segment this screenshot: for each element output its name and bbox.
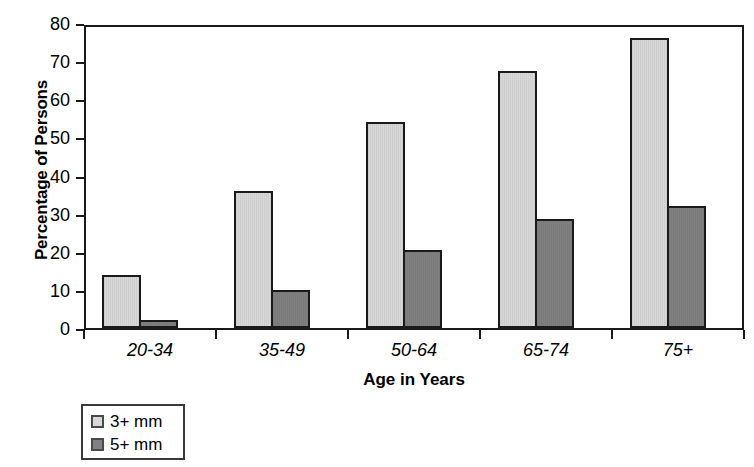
bar (102, 275, 141, 328)
y-axis-tick-label: 30 (30, 206, 70, 224)
bar (403, 250, 442, 328)
x-axis-category-label: 35-49 (216, 340, 348, 361)
x-axis-tick-mark (743, 330, 745, 339)
x-axis-category-label: 20-34 (84, 340, 216, 361)
y-axis-tick-mark (76, 100, 84, 102)
x-axis-category-label: 50-64 (348, 340, 480, 361)
y-axis-tick-labels: 01020304050607080 (26, 0, 70, 467)
legend-item-label: 3+ mm (110, 413, 162, 430)
bar (139, 320, 178, 328)
x-axis-tick-mark (83, 330, 85, 339)
bar (498, 71, 537, 328)
bar (271, 290, 310, 328)
y-axis-tick-label: 0 (30, 320, 70, 338)
light-gray-swatch (91, 415, 104, 428)
legend-item: 5+ mm (91, 433, 183, 456)
legend-item: 3+ mm (91, 410, 183, 433)
bar (234, 191, 273, 328)
y-axis-tick-label: 50 (30, 129, 70, 147)
bar (535, 219, 574, 328)
bar-chart: Percentage of Persons 01020304050607080 … (0, 0, 754, 467)
bar (630, 38, 669, 328)
y-axis-tick-label: 40 (30, 168, 70, 186)
x-axis-tick-mark (347, 330, 349, 339)
chart-legend: 3+ mm5+ mm (81, 404, 185, 460)
x-axis-category-label: 75+ (612, 340, 744, 361)
y-axis-tick-mark (76, 253, 84, 255)
bar (366, 122, 405, 328)
dark-gray-swatch (91, 438, 104, 451)
y-axis-tick-mark (76, 62, 84, 64)
y-axis-tick-mark (76, 24, 84, 26)
x-axis-category-label: 65-74 (480, 340, 612, 361)
y-axis-tick-label: 20 (30, 244, 70, 262)
bar (667, 206, 706, 328)
x-axis-tick-mark (215, 330, 217, 339)
y-axis-tick-mark (76, 138, 84, 140)
y-axis-tick-label: 10 (30, 282, 70, 300)
y-axis-tick-label: 80 (30, 15, 70, 33)
y-axis-tick-mark (76, 177, 84, 179)
x-axis-tick-mark (611, 330, 613, 339)
y-axis-tick-label: 70 (30, 53, 70, 71)
y-axis-tick-label: 60 (30, 91, 70, 109)
legend-item-label: 5+ mm (110, 436, 162, 453)
y-axis-tick-mark (76, 291, 84, 293)
plot-area (84, 25, 744, 330)
x-axis-title: Age in Years (84, 370, 744, 390)
x-axis-tick-mark (479, 330, 481, 339)
y-axis-tick-mark (76, 215, 84, 217)
